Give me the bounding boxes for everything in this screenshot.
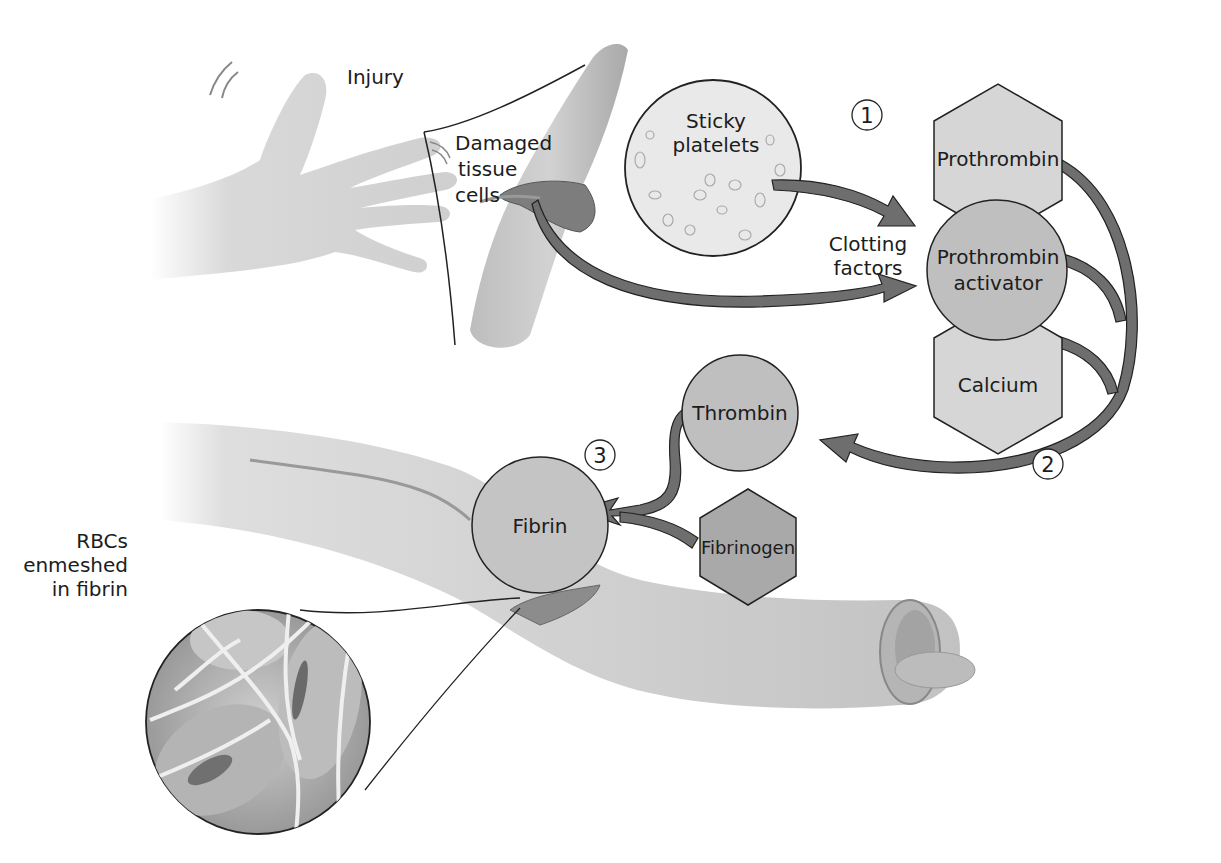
thrombin-label: Thrombin — [691, 401, 787, 425]
step-2-badge: 2 — [1033, 449, 1063, 479]
sticky-platelets-label-2: platelets — [673, 133, 760, 157]
svg-text:3: 3 — [593, 444, 606, 468]
clotting-factors-label-1: Clotting — [829, 232, 907, 256]
arrow-fibrinogen-to-fibrin — [620, 512, 698, 548]
prothrombin-label: Prothrombin — [937, 147, 1060, 171]
arrow-calcium-branch — [1056, 336, 1118, 394]
clotting-factors-label-2: factors — [833, 256, 902, 280]
step-1-badge: 1 — [852, 100, 882, 130]
prothrombin-activator-label-2: activator — [953, 271, 1043, 295]
arrow-activator-branch — [1058, 253, 1126, 322]
damaged-tissue-label-2: tissue — [458, 157, 517, 181]
rbc-magnified-callout — [134, 600, 373, 840]
damaged-tissue-label-1: Damaged — [455, 131, 552, 155]
fibrin-label: Fibrin — [513, 514, 568, 538]
motion-line-icon — [222, 72, 238, 98]
motion-line-icon — [210, 62, 232, 95]
rbcs-label-2: enmeshed — [23, 553, 128, 577]
injury-label: Injury — [347, 65, 404, 89]
prothrombin-activator-label-1: Prothrombin — [937, 245, 1060, 269]
rbcs-label-1: RBCs — [76, 529, 128, 553]
svg-text:2: 2 — [1041, 453, 1054, 477]
rbcs-label-3: in fibrin — [52, 577, 128, 601]
sticky-platelets-label-1: Sticky — [686, 109, 746, 133]
svg-text:1: 1 — [860, 104, 873, 128]
hand-shape — [150, 73, 457, 280]
step-3-badge: 3 — [585, 440, 615, 470]
prothrombin-activator-circle — [927, 200, 1067, 340]
red-blood-cell-icon — [895, 652, 975, 688]
callout-line — [365, 608, 520, 790]
fibrinogen-label: Fibrinogen — [701, 537, 795, 558]
damaged-tissue-label-3: cells — [455, 183, 500, 207]
callout-line — [424, 132, 455, 345]
calcium-label: Calcium — [958, 373, 1039, 397]
hand-illustration — [150, 62, 457, 280]
sticky-platelets-callout — [625, 80, 801, 256]
clotting-diagram: 1 2 3 Injury Damaged tissue cells Sticky… — [0, 0, 1221, 863]
